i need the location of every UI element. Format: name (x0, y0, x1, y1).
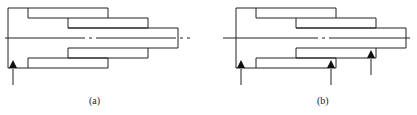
panel-b-stepped-shaft (223, 8, 410, 68)
panel-a-support-arrows (9, 60, 17, 85)
figure: (a) (b) (0, 0, 417, 115)
support-arrow-icon (367, 50, 375, 58)
support-arrow-icon (237, 60, 245, 68)
support-arrow-icon (327, 60, 335, 68)
caption-a: (a) (89, 95, 100, 106)
caption-b: (b) (317, 95, 329, 106)
diagram-canvas (0, 0, 417, 115)
panel-a-stepped-shaft (5, 8, 190, 68)
support-arrow-icon (9, 60, 17, 68)
